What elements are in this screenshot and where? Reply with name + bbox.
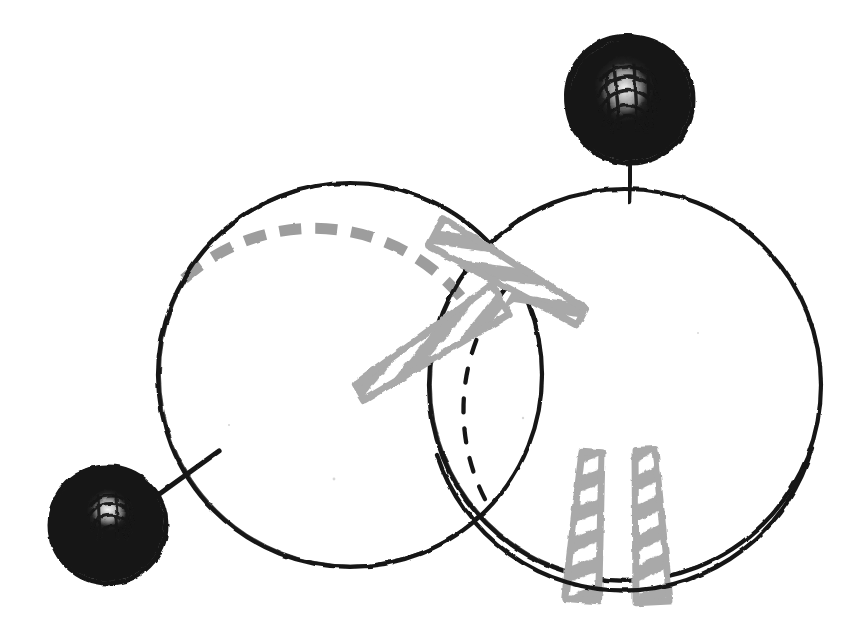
sketch-svg bbox=[0, 0, 864, 642]
top-right-scribble-ball bbox=[567, 37, 693, 163]
bottom-left-scribble-ball bbox=[50, 467, 166, 583]
sketch-canvas: hand-drawn two-circle sketch left circle… bbox=[0, 0, 864, 642]
